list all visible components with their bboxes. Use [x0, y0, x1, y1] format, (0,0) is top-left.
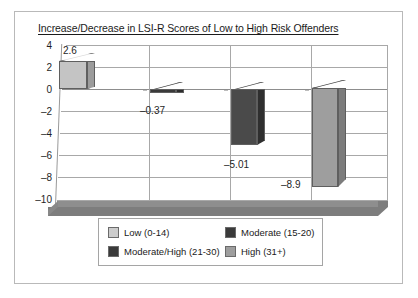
- value-label-moderate-high: –5.01: [224, 159, 249, 170]
- legend-label-high: High (31+): [241, 246, 286, 257]
- legend-label-low: Low (0-14): [124, 227, 169, 238]
- gridline-4: [66, 45, 387, 46]
- y-axis: 4 2 0 –2 –4 –6 –8 –10: [30, 42, 52, 212]
- bar-moderate-front: [150, 89, 176, 93]
- legend-item-moderate[interactable]: Moderate (15-20): [225, 227, 314, 238]
- bar-low[interactable]: [59, 61, 87, 89]
- legend-swatch-moderate-high-icon: [108, 246, 119, 257]
- value-label-high: –8.9: [281, 179, 300, 190]
- legend-swatch-high-icon: [225, 246, 236, 257]
- plot-area: 4 2 0 –2 –4 –6 –8 –10 2.6: [30, 42, 398, 212]
- bar-low-side: [87, 61, 95, 89]
- legend-swatch-low-icon: [108, 227, 119, 238]
- legend-label-moderate: Moderate (15-20): [241, 227, 314, 238]
- legend-item-high[interactable]: High (31+): [225, 246, 286, 257]
- value-label-moderate: –0.37: [140, 105, 165, 116]
- y-tick-neg8: –8: [30, 173, 52, 183]
- category-divider-1: [149, 45, 150, 201]
- bar-high[interactable]: [312, 88, 338, 187]
- floor-front-face: [48, 207, 378, 216]
- bar-moderate-high[interactable]: [231, 89, 257, 145]
- axis-nub-1: [143, 90, 147, 91]
- bar-moderate-side: [176, 89, 184, 93]
- legend-swatch-moderate-icon: [225, 227, 236, 238]
- y-tick-0: 0: [30, 85, 52, 95]
- value-label-low: 2.6: [63, 45, 77, 56]
- gridline-2: [64, 67, 387, 68]
- chart-legend: Low (0-14) Moderate (15-20) Moderate/Hig…: [98, 218, 323, 266]
- y-tick-4: 4: [30, 41, 52, 51]
- y-tick-neg2: –2: [30, 107, 52, 117]
- bar-moderate-high-side: [257, 89, 265, 145]
- legend-item-low[interactable]: Low (0-14): [108, 227, 169, 238]
- axis-nub-2: [224, 90, 228, 91]
- bar-high-side: [338, 88, 346, 187]
- axis-nub-3: [305, 90, 309, 91]
- y-tick-neg6: –6: [30, 151, 52, 161]
- y-tick-neg4: –4: [30, 129, 52, 139]
- legend-item-moderate-high[interactable]: Moderate/High (21-30): [108, 246, 220, 257]
- legend-label-moderate-high: Moderate/High (21-30): [124, 246, 220, 257]
- bar-moderate[interactable]: [150, 89, 176, 93]
- y-tick-2: 2: [30, 63, 52, 73]
- bar-low-front: [59, 61, 87, 89]
- y-tick-neg10: –10: [30, 195, 52, 205]
- chart-title: Increase/Decrease in LSI-R Scores of Low…: [38, 22, 388, 34]
- plot-right-edge: [387, 45, 388, 201]
- bar-moderate-high-front: [231, 89, 257, 145]
- bar-high-front: [312, 88, 338, 187]
